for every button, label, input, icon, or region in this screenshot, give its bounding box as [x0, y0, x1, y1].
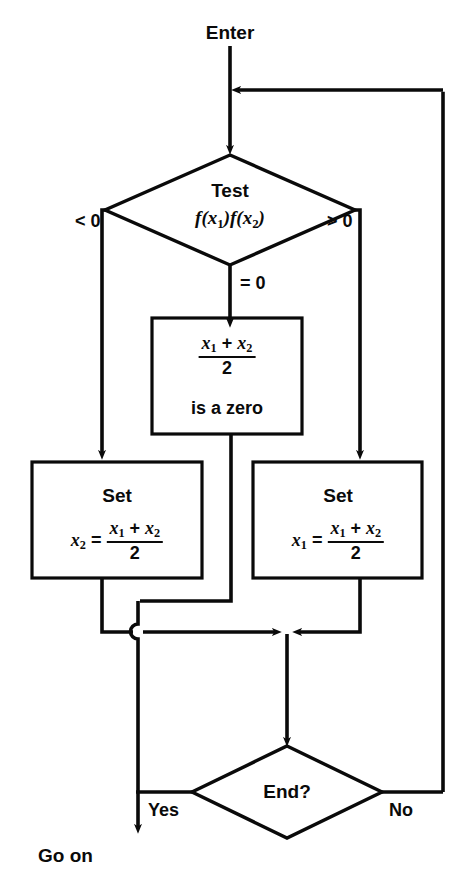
test-expr-mid: )f( [224, 207, 243, 228]
set-left-title: Set [102, 485, 132, 507]
edge-label-less-than-zero: < 0 [75, 211, 101, 232]
set-right-numerator: x1 + x2 [327, 518, 384, 541]
entry-label: Enter [206, 22, 255, 44]
test-node-title: Test [211, 180, 249, 202]
test-expr-f1: f( [195, 207, 208, 228]
set-left-lhs: x2 [71, 530, 86, 550]
edge-label-greater-than-zero: > 0 [327, 211, 353, 232]
set-right-fraction: x1 + x2 2 [327, 518, 384, 564]
set-right-num-x2: x [366, 518, 375, 538]
zero-num-x2: x [237, 333, 246, 353]
set-left-equals: = [86, 530, 107, 550]
set-right-assignment: x1 = x1 + x2 2 [292, 518, 384, 564]
edge-label-equals-zero: = 0 [240, 273, 266, 294]
edge-label-no: No [389, 800, 413, 821]
set-left-num-x2-sub: 2 [154, 526, 160, 540]
exit-label: Go on [38, 845, 93, 867]
edge-line-hop [131, 601, 138, 656]
set-right-num-plus: + [346, 518, 367, 538]
set-left-lhs-var: x [71, 530, 80, 550]
set-right-num-x2-sub: 2 [375, 526, 381, 540]
zero-box-fraction: x1 + x2 2 [199, 333, 256, 379]
zero-num-x1: x [202, 333, 211, 353]
zero-num-x2-sub: 2 [246, 341, 252, 355]
zero-box-caption: is a zero [191, 398, 263, 419]
edge-setright-to-bus [297, 578, 360, 632]
end-node-label: End? [263, 781, 311, 803]
set-right-lhs: x1 [292, 530, 307, 550]
edge-label-yes: Yes [148, 800, 179, 821]
test-expr-x1: x [208, 207, 218, 228]
flowchart-canvas: Enter Test f(x1)f(x2) < 0 > 0 = 0 x1 + x… [0, 0, 467, 874]
set-right-equals: = [307, 530, 328, 550]
set-left-fraction: x1 + x2 2 [106, 518, 163, 564]
set-left-numerator: x1 + x2 [106, 518, 163, 541]
set-left-assignment: x2 = x1 + x2 2 [71, 518, 163, 564]
test-expr-end: ) [259, 207, 265, 228]
set-left-num-x2: x [145, 518, 154, 538]
flowchart-vector-layer [0, 0, 467, 874]
zero-box-fraction-stack: x1 + x2 2 [199, 333, 256, 379]
set-right-denominator: 2 [327, 541, 384, 564]
set-left-denominator: 2 [106, 541, 163, 564]
zero-box-denominator: 2 [199, 356, 256, 379]
zero-num-plus: + [217, 333, 238, 353]
set-right-num-x1: x [330, 518, 339, 538]
test-expr-x2: x [243, 207, 253, 228]
set-right-lhs-var: x [292, 530, 301, 550]
test-node-expression: f(x1)f(x2) [195, 207, 265, 232]
set-left-num-plus: + [125, 518, 146, 538]
set-right-title: Set [323, 485, 353, 507]
edge-test-lt0-to-setleft [102, 210, 105, 455]
edge-setleft-to-bus [102, 578, 133, 632]
edge-test-gt0-to-setright [355, 210, 360, 455]
set-left-num-x1: x [109, 518, 118, 538]
zero-box-numerator: x1 + x2 [199, 333, 256, 356]
